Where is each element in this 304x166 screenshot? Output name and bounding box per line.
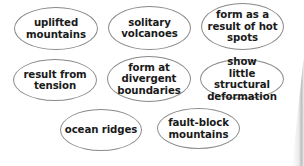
bubble-little-deformation: show little structural deformation xyxy=(200,59,284,99)
bubble-ocean-ridges: ocean ridges xyxy=(60,109,142,151)
bubble-label: ocean ridges xyxy=(65,124,138,136)
bubble-label: form as a result of hot spots xyxy=(208,9,278,44)
bubble-result-from-tension: result from tension xyxy=(13,59,97,101)
bubble-label: result from tension xyxy=(23,69,86,92)
bubble-label: show little structural deformation xyxy=(201,56,283,102)
bubble-label: fault-block mountains xyxy=(168,117,229,140)
bubble-label: form at divergent boundaries xyxy=(117,62,180,97)
bubble-label: uplifted mountains xyxy=(26,17,86,40)
bubble-divergent-boundaries: form at divergent boundaries xyxy=(107,56,191,102)
bubble-fault-block-mountains: fault-block mountains xyxy=(157,108,240,149)
bubble-uplifted-mountains: uplifted mountains xyxy=(14,7,98,50)
bubble-solitary-volcanoes: solitary volcanoes xyxy=(108,6,191,50)
bubble-label: solitary volcanoes xyxy=(121,17,177,40)
bubble-hot-spots: form as a result of hot spots xyxy=(201,3,284,50)
page-curl-shadow xyxy=(292,60,304,166)
